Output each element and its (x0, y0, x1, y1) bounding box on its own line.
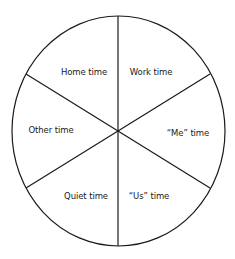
segment-other-time: Other time (28, 125, 73, 135)
segment-quiet-time: Quiet time (64, 191, 108, 201)
segment-home-time: Home time (61, 67, 107, 77)
segment-work-time: Work time (130, 67, 173, 77)
segment-me-time: “Me” time (167, 128, 209, 138)
segment-us-time: “Us” time (129, 191, 169, 201)
